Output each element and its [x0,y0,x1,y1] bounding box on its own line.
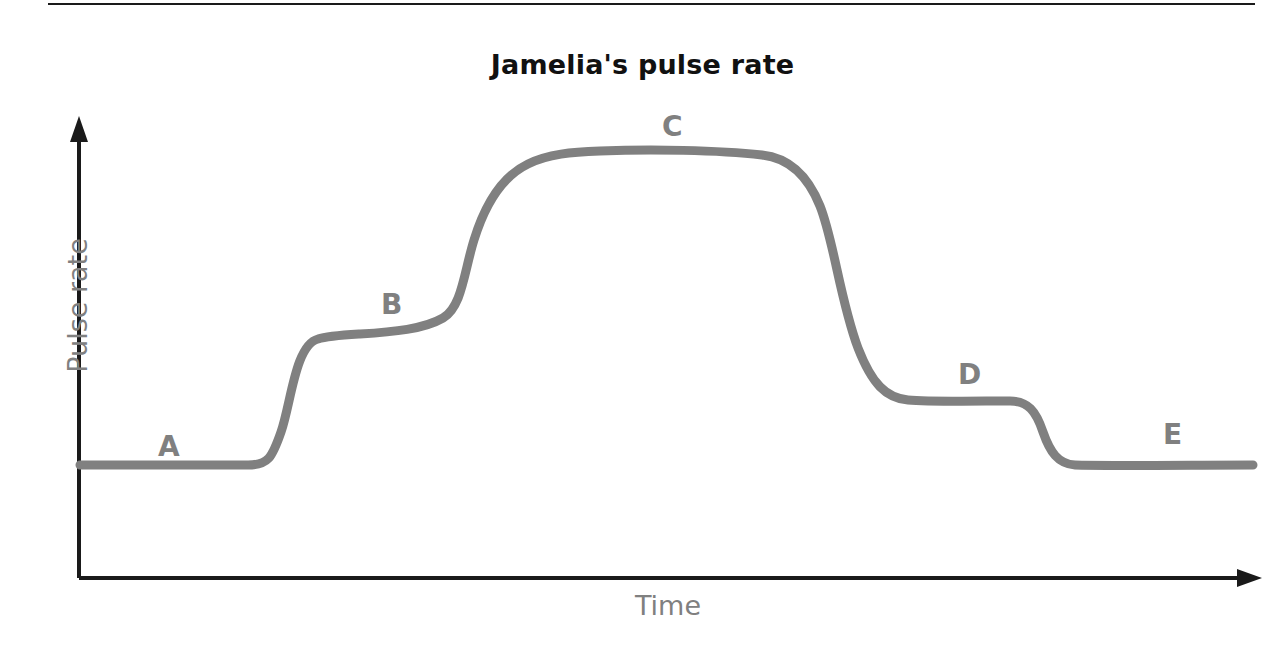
curve-label-b: B [381,288,402,321]
pulse-rate-curve [80,150,1253,465]
curve-label-e: E [1163,418,1182,451]
curve-label-c: C [662,110,683,143]
chart-page: Jamelia's pulse rate Pulse rate Time A B… [0,0,1285,661]
y-axis-arrowhead-icon [70,116,88,142]
x-axis-group [79,569,1262,587]
x-axis-label: Time [578,590,758,621]
curve-label-d: D [958,358,981,391]
curve-label-a: A [158,430,180,463]
pulse-rate-line-chart [0,0,1285,661]
x-axis-arrowhead-icon [1237,569,1262,587]
y-axis-label: Pulse rate [62,216,93,396]
